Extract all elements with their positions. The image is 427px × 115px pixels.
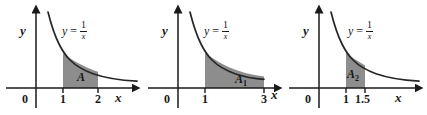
equation-lhs: y bbox=[62, 25, 67, 37]
origin-label: 0 bbox=[164, 93, 170, 105]
y-axis-label: y bbox=[20, 24, 26, 37]
tick-label-2: 2 bbox=[95, 93, 101, 105]
tick-label-1: 1 bbox=[202, 93, 208, 105]
fraction-numerator: 1 bbox=[81, 20, 86, 30]
tick-label-3: 3 bbox=[261, 93, 267, 105]
region-label-A2: A2 bbox=[347, 68, 359, 83]
y-axis-label: y bbox=[303, 24, 309, 37]
equation-y-equals-1-over-x: y = 1 x bbox=[204, 20, 229, 41]
tick-label-1-5: 1.5 bbox=[355, 93, 370, 105]
fraction-denominator: x bbox=[224, 33, 228, 41]
equation-y-equals-1-over-x: y = 1 x bbox=[62, 20, 87, 41]
equation-equals-sign: = bbox=[212, 25, 219, 37]
fraction-one-over-x: 1 x bbox=[80, 20, 87, 41]
origin-label: 0 bbox=[305, 93, 311, 105]
hyperbola-area-figure-row: y x 0 1 2 A y = 1 x bbox=[0, 0, 427, 115]
tick-label-1: 1 bbox=[60, 93, 66, 105]
fraction-one-over-x: 1 x bbox=[366, 20, 373, 41]
region-label-A: A bbox=[77, 71, 85, 83]
panel-area-A2: y x 0 1 1.5 A2 y = 1 x bbox=[285, 0, 427, 115]
panel-area-A: y x 0 1 2 A y = 1 x bbox=[0, 0, 143, 115]
x-axis-label: x bbox=[395, 91, 402, 104]
fraction-one-over-x: 1 x bbox=[222, 20, 229, 41]
tick-label-1: 1 bbox=[343, 93, 349, 105]
equation-y-equals-1-over-x: y = 1 x bbox=[348, 20, 373, 41]
region-label-A2-text: A bbox=[347, 67, 355, 81]
region-label-A2-subscript: 2 bbox=[355, 74, 359, 83]
equation-equals-sign: = bbox=[70, 25, 77, 37]
region-label-A1-text: A bbox=[235, 72, 243, 86]
equation-equals-sign: = bbox=[356, 25, 363, 37]
origin-label: 0 bbox=[22, 93, 28, 105]
equation-lhs: y bbox=[348, 25, 353, 37]
fraction-numerator: 1 bbox=[367, 20, 372, 30]
fraction-denominator: x bbox=[82, 33, 86, 41]
region-label-A1-subscript: 1 bbox=[243, 79, 247, 88]
region-label-A-text: A bbox=[77, 70, 85, 84]
panel-area-A1: y x 0 1 3 A1 y = 1 x bbox=[143, 0, 285, 115]
curve-y-equals-1-over-x bbox=[331, 12, 419, 81]
x-axis-label: x bbox=[115, 91, 122, 104]
region-label-A1: A1 bbox=[235, 73, 247, 88]
x-axis-label: x bbox=[271, 88, 278, 101]
fraction-denominator: x bbox=[368, 33, 372, 41]
equation-lhs: y bbox=[204, 25, 209, 37]
y-axis-label: y bbox=[162, 24, 168, 37]
fraction-numerator: 1 bbox=[223, 20, 228, 30]
